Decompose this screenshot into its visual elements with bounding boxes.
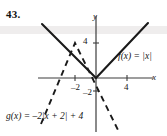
equation-label-g: g(x) = –2|x + 2| + 4 — [6, 111, 83, 121]
x-tick-label-neg2: –2 — [71, 82, 80, 92]
y-tick-label-4: 4 — [83, 36, 88, 46]
x-axis-label: x — [152, 72, 156, 82]
figure-panel: 43. y x –2 4 4 –2 f(x) = |x| g(x) = –2|x… — [0, 0, 167, 136]
y-tick-label-neg2: –2 — [83, 87, 92, 97]
x-tick-label-4: 4 — [124, 82, 129, 92]
equation-label-f: f(x) = |x| — [118, 51, 152, 61]
y-axis-label: y — [93, 11, 97, 21]
